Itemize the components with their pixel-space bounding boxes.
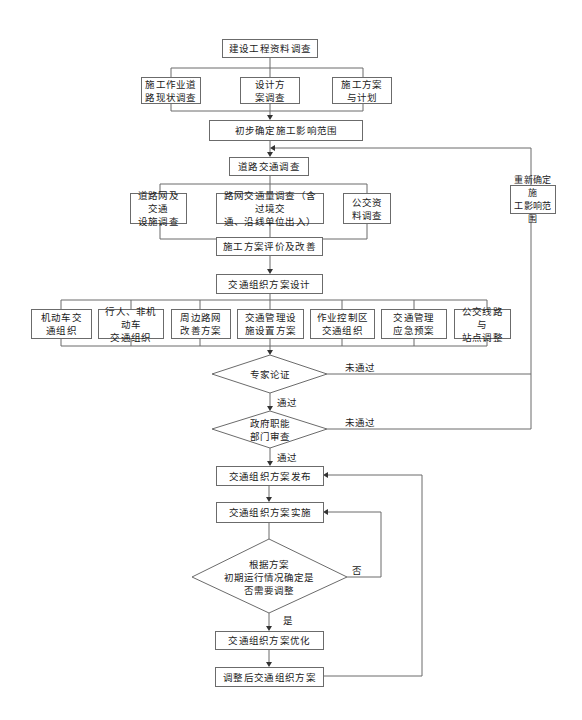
node-label: 道路交通调查	[238, 160, 300, 173]
node-label: 交通组织方案设计	[228, 278, 310, 291]
node-label: 施工作业道 路现状调查	[145, 78, 197, 104]
node-label: 重新确定施 工影响范围	[513, 174, 553, 226]
node-plan-evaluation: 施工方案评价及改善	[216, 237, 323, 256]
node-label: 周边路网 改善方案	[180, 311, 221, 337]
edge-label-expert-fail: 未通过	[345, 362, 375, 374]
node-organization-design: 交通组织方案设计	[216, 274, 323, 294]
node-label: 设计方 案调查	[255, 78, 286, 104]
arrow-head	[270, 145, 275, 151]
node-redefine-scope: 重新确定施 工影响范围	[510, 185, 556, 214]
node-label: 公交线路与 站点调整	[457, 305, 508, 344]
edge-label-gov-pass: 通过	[277, 452, 297, 464]
flowchart-connectors	[0, 0, 582, 720]
arrow-head	[267, 350, 273, 355]
node-implement-plan: 交通组织方案实施	[216, 502, 324, 523]
node-label: 交通组织方案实施	[229, 506, 311, 519]
node-road-status-survey: 施工作业道 路现状调查	[141, 77, 201, 104]
node-facilities-plan: 交通管理设 施设置方案	[237, 309, 304, 339]
join-connector	[171, 103, 363, 111]
node-label: 行人、非机动车 交通组织	[101, 305, 161, 344]
node-publish-plan: 交通组织方案发布	[216, 466, 324, 486]
node-label: 交通管理设 施设置方案	[245, 311, 297, 337]
node-initial-scope: 初步确定施工影响范围	[209, 120, 363, 141]
node-label: 道路网及交通 设施调查	[133, 189, 184, 228]
node-project-info-survey: 建设工程资料调查	[222, 39, 318, 58]
node-label: 路网交通量调查（含过境交 通、沿线单位出入）	[219, 189, 321, 228]
node-nearby-network-plan: 周边路网 改善方案	[171, 309, 231, 339]
node-road-network-survey: 道路网及交通 设施调查	[130, 193, 187, 224]
node-transit-data-survey: 公交资 料调查	[343, 193, 391, 224]
node-label: 交通组织方案优化	[228, 634, 310, 647]
node-label: 公交资 料调查	[352, 196, 383, 222]
arrow-head	[267, 406, 273, 411]
node-label: 初步确定施工影响范围	[235, 124, 338, 137]
edge-label-expert-pass: 通过	[277, 397, 297, 409]
node-optimize-plan: 交通组织方案优化	[215, 631, 324, 650]
edge-label-adjust-no: 否	[352, 565, 362, 577]
node-construction-plan: 施工方案 与计划	[332, 77, 392, 104]
edge-label-gov-fail: 未通过	[345, 417, 375, 429]
node-motor-vehicle-org: 机动车交 通组织	[31, 309, 92, 339]
node-emergency-plan: 交通管理 应急预案	[381, 309, 447, 339]
node-pedestrian-nonmotor-org: 行人、非机动车 交通组织	[98, 309, 164, 339]
branch-connector	[171, 68, 363, 77]
node-label: 调整后交通组织方案	[223, 671, 316, 684]
node-bus-route-adjust: 公交线路与 站点调整	[454, 309, 511, 339]
edge-label-adjust-yes: 是	[283, 615, 293, 627]
node-label: 机动车交 通组织	[41, 311, 82, 337]
node-label: 施工方案评价及改善	[223, 240, 316, 253]
node-label: 作业控制区 交通组织	[317, 311, 369, 337]
node-adjusted-plan: 调整后交通组织方案	[215, 667, 324, 687]
node-label: 施工方案 与计划	[341, 78, 382, 104]
decision-label-gov: 政府职能 部门审查	[222, 416, 318, 444]
decision-label-expert: 专家论证	[222, 364, 318, 384]
node-work-zone-org: 作业控制区 交通组织	[310, 309, 375, 339]
node-label: 建设工程资料调查	[229, 42, 311, 55]
decision-label-adjust: 根据方案 初期运行情况确定是 否需要调整	[219, 556, 319, 598]
node-design-plan-survey: 设计方 案调查	[240, 77, 300, 104]
node-label: 交通管理 应急预案	[393, 311, 434, 337]
node-volume-survey: 路网交通量调查（含过境交 通、沿线单位出入）	[216, 193, 324, 224]
node-label: 交通组织方案发布	[229, 470, 311, 483]
node-traffic-survey: 道路交通调查	[229, 157, 309, 176]
